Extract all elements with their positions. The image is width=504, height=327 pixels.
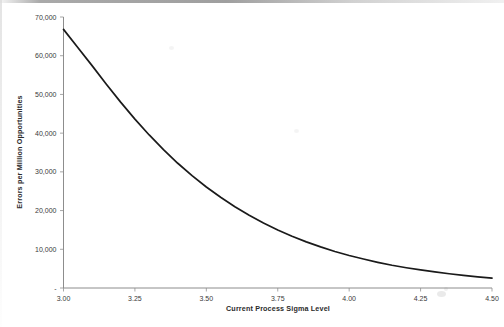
y-tick-label: 70,000 [35,14,57,21]
y-axis-title: Errors per Million Opportunities [15,95,24,208]
x-tick-label: 3.00 [57,295,71,302]
y-axis-tick-labels: -10,00020,00030,00040,00050,00060,00070,… [35,14,57,292]
y-tick-label: 60,000 [35,52,57,59]
x-tick-label: 4.50 [485,295,499,302]
y-tick-label: - [54,285,57,292]
x-axis-tick-labels: 3.003.253.503.754.004.254.50 [57,295,499,302]
y-tick-label: 50,000 [35,91,57,98]
y-tick-label: 20,000 [35,207,57,214]
dpmo-curve [64,29,493,278]
y-axis-ticks [60,17,64,288]
plot-area: -10,00020,00030,00040,00050,00060,00070,… [35,14,499,302]
x-tick-label: 4.25 [414,295,428,302]
y-tick-label: 40,000 [35,130,57,137]
x-axis-title: Current Process Sigma Level [226,304,330,313]
y-tick-label: 30,000 [35,168,57,175]
chart-container: -10,00020,00030,00040,00050,00060,00070,… [0,0,504,327]
y-tick-label: 10,000 [35,246,57,253]
x-tick-label: 3.50 [200,295,214,302]
chart-svg: -10,00020,00030,00040,00050,00060,00070,… [0,0,504,327]
x-tick-label: 3.25 [128,295,142,302]
x-axis-ticks [64,288,493,292]
x-tick-label: 4.00 [342,295,356,302]
x-tick-label: 3.75 [271,295,285,302]
